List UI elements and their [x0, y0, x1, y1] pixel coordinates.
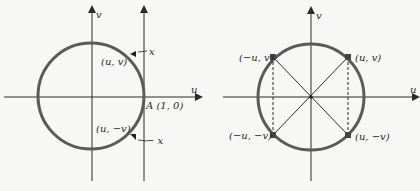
right-v-axis-arrow-icon: [307, 6, 315, 14]
tangent-line-arrow-icon: [140, 5, 148, 13]
lower-arc-marker-icon: [130, 134, 136, 140]
label-u-neg-v: (u, −v): [355, 131, 390, 142]
left-u-label: u: [191, 84, 197, 95]
lower-marker-label: − x: [146, 135, 164, 146]
right-figure: v u (−u, v) (u, v) (−u, −v) (u, −v): [223, 6, 420, 181]
right-v-label: v: [316, 10, 322, 21]
left-figure: v u x − x (u, v) (u, −v) A (1, 0): [4, 5, 203, 181]
point-A-label: A (1, 0): [145, 100, 183, 111]
upper-arc-marker-icon: [130, 51, 136, 57]
upper-marker-label: x: [149, 46, 155, 57]
point-u-neg-v-marker: [345, 132, 351, 138]
right-u-label: u: [410, 84, 416, 95]
upper-marker-leader: [138, 51, 147, 52]
unit-circle-diagrams: v u x − x (u, v) (u, −v) A (1, 0) v u (−…: [0, 0, 420, 191]
left-v-axis-arrow-icon: [88, 5, 96, 13]
point-u-negv-label: (u, −v): [96, 123, 131, 134]
label-u-v: (u, v): [355, 52, 381, 63]
left-v-label: v: [96, 9, 102, 20]
point-u-v-marker: [345, 54, 351, 60]
origin-dot: [309, 95, 313, 99]
label-neg-u-neg-v: (−u, −v): [229, 130, 272, 141]
point-uv-label: (u, v): [101, 56, 127, 67]
label-neg-u-v: (−u, v): [239, 52, 274, 63]
